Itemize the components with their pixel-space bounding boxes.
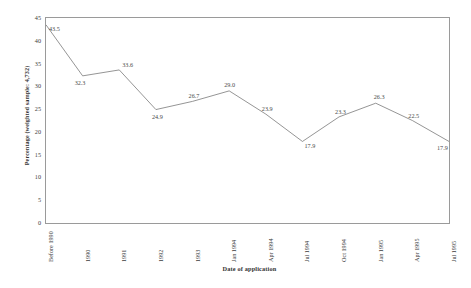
y-tick-label: 45: [15, 15, 41, 21]
line-chart-figure: Percentage (weighted sample: 4,732) 0510…: [0, 0, 471, 288]
x-tick-label: Jul 1994: [304, 241, 310, 262]
data-point-label: 17.9: [437, 145, 448, 151]
x-tick-label: Apr 1994: [268, 238, 274, 262]
y-axis-title: Percentage (weighted sample: 4,732): [23, 21, 30, 211]
y-tick-label: 0: [15, 220, 41, 226]
data-point-label: 32.3: [75, 80, 86, 86]
x-axis-title: Date of application: [0, 265, 471, 272]
data-point-label: 29.0: [224, 82, 235, 88]
x-tick-label: Before 1990: [48, 231, 54, 262]
data-point-label: 33.6: [122, 62, 133, 68]
x-tick-label: Apr 1995: [414, 238, 420, 262]
y-tick-label: 15: [15, 152, 41, 158]
data-point-label: 23.3: [335, 109, 346, 115]
x-tick-label: 1992: [158, 250, 164, 262]
data-point-label: 23.9: [262, 106, 273, 112]
y-tick-label: 25: [15, 106, 41, 112]
data-point-label: 43.5: [49, 26, 60, 32]
y-tick-label: 35: [15, 61, 41, 67]
plot-area: [45, 17, 450, 224]
y-tick-label: 40: [15, 38, 41, 44]
y-tick-label: 20: [15, 129, 41, 135]
y-tick-label: 10: [15, 174, 41, 180]
series-polyline: [46, 25, 449, 142]
y-tick-label: 30: [15, 83, 41, 89]
x-tick-label: Jan 1995: [378, 240, 384, 262]
data-series-line: [46, 18, 449, 223]
data-point-label: 17.9: [304, 143, 315, 149]
data-point-label: 26.7: [189, 93, 200, 99]
x-tick-label: Jul 1995: [451, 241, 457, 262]
x-tick-label: 1991: [121, 250, 127, 262]
x-axis-title-text: Date of application: [223, 265, 277, 272]
data-point-label: 24.9: [152, 114, 163, 120]
x-tick-label: 1990: [85, 250, 91, 262]
x-tick-label: Oct 1994: [341, 239, 347, 262]
data-point-label: 22.5: [408, 113, 419, 119]
x-tick-label: 1993: [195, 250, 201, 262]
y-tick-label: 5: [15, 197, 41, 203]
data-point-label: 26.3: [374, 94, 385, 100]
x-tick-label: Jan 1994: [231, 240, 237, 262]
